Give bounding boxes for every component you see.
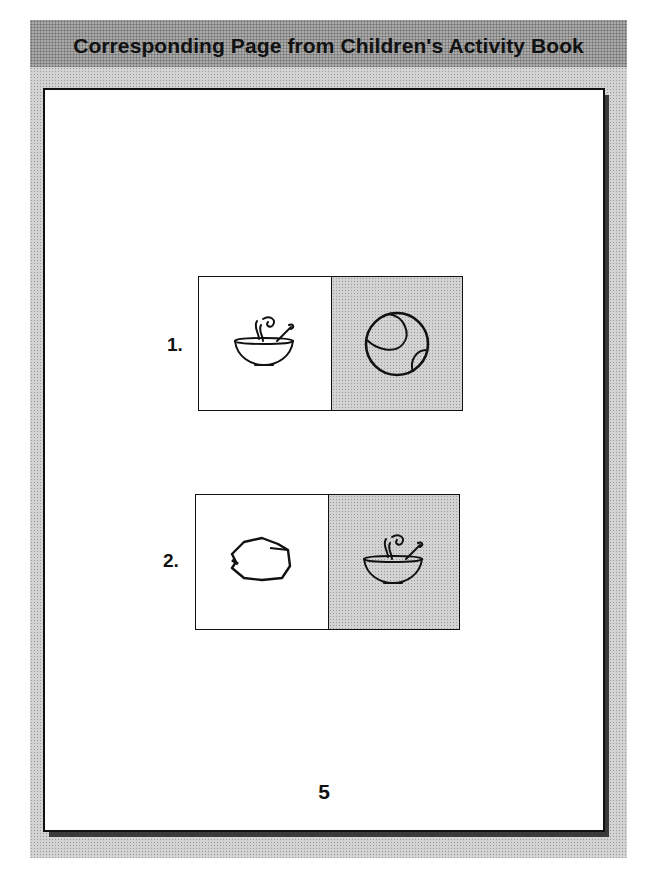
- activity-book-page: 1.: [43, 88, 605, 832]
- ball-icon: [357, 304, 437, 384]
- panel-header: Corresponding Page from Children's Activ…: [30, 20, 627, 67]
- item-number: 2.: [163, 550, 179, 572]
- item-number: 1.: [167, 334, 183, 356]
- picture-cell-right-shaded: [331, 277, 463, 410]
- picture-cell-left: [199, 277, 331, 410]
- picture-pair-box: [198, 276, 463, 411]
- picture-cell-left: [196, 495, 328, 629]
- soup-bowl-icon: [225, 309, 305, 379]
- rock-icon: [222, 532, 302, 592]
- picture-cell-right-shaded: [328, 495, 460, 629]
- picture-pair-box: [195, 494, 460, 630]
- soup-bowl-icon: [354, 527, 434, 597]
- panel-title: Corresponding Page from Children's Activ…: [73, 34, 584, 58]
- page-number: 5: [45, 780, 603, 804]
- illustration-panel: Corresponding Page from Children's Activ…: [30, 20, 627, 858]
